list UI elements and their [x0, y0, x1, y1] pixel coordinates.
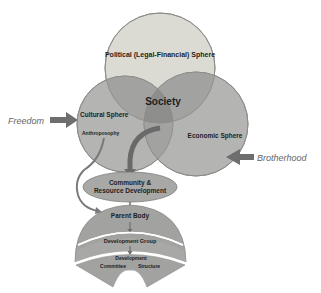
- freedom-arrow-icon: [50, 112, 78, 128]
- community-label-line1: Community &: [109, 179, 152, 187]
- development-committee-label-a: Committee: [100, 263, 126, 269]
- development-committee-label-line1: Development: [115, 255, 147, 261]
- sphere-diagram: Political (Legal-Financial) Sphere Socie…: [0, 0, 321, 293]
- freedom-label: Freedom: [8, 116, 45, 126]
- community-label-line2: Resource Development: [94, 187, 167, 195]
- economic-sphere-label: Economic Sphere: [188, 132, 243, 140]
- cultural-sphere-label: Cultural Sphere: [80, 111, 129, 119]
- society-label: Society: [145, 96, 181, 107]
- development-group-label: Development Group: [104, 238, 157, 244]
- parent-body-label: Parent Body: [111, 212, 150, 220]
- anthroposophy-label: Anthroposophy: [82, 130, 119, 136]
- political-sphere-label: Political (Legal-Financial) Sphere: [105, 51, 215, 59]
- development-committee-label-b: Structure: [138, 263, 160, 269]
- brotherhood-label: Brotherhood: [257, 153, 308, 163]
